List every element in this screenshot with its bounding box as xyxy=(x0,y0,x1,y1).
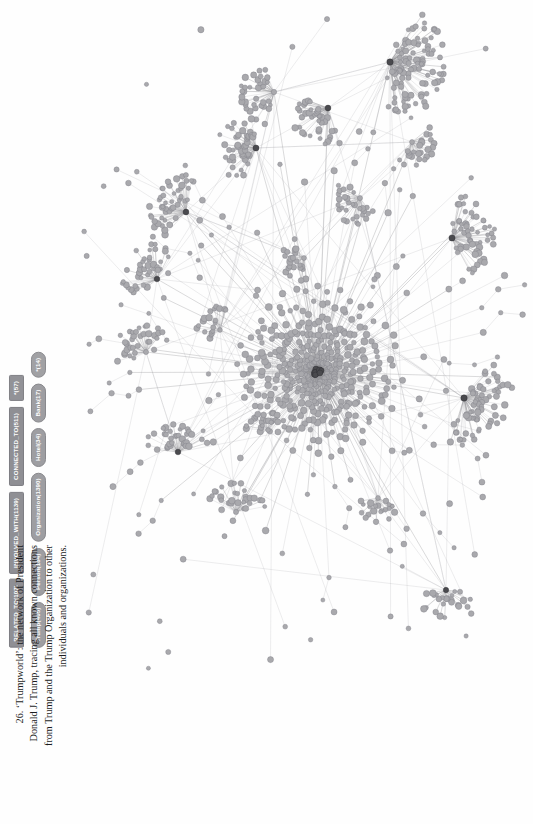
graph-node xyxy=(391,166,396,171)
graph-node xyxy=(134,329,139,334)
graph-node xyxy=(351,340,356,345)
node-badge-hotel[interactable]: Hotel(34) xyxy=(31,428,46,467)
graph-node xyxy=(472,251,479,258)
graph-node xyxy=(414,163,419,168)
graph-node xyxy=(392,342,399,349)
graph-node xyxy=(403,48,409,54)
graph-node xyxy=(290,447,296,453)
graph-node xyxy=(180,556,186,562)
graph-node xyxy=(310,437,316,443)
graph-node xyxy=(235,142,241,148)
graph-node xyxy=(303,289,308,294)
graph-node xyxy=(248,115,255,122)
rel-badge-clipped[interactable]: *(57) xyxy=(9,375,24,401)
graph-node xyxy=(277,364,283,370)
graph-node xyxy=(197,275,203,281)
graph-node xyxy=(360,428,366,434)
graph-node xyxy=(492,227,496,231)
graph-node xyxy=(350,369,356,375)
graph-node xyxy=(402,100,406,104)
graph-node xyxy=(253,145,259,151)
graph-node xyxy=(302,256,307,261)
graph-node xyxy=(287,273,292,278)
graph-node xyxy=(295,106,300,111)
graph-node xyxy=(397,158,401,162)
graph-edge xyxy=(202,200,222,216)
graph-node xyxy=(387,59,393,65)
graph-node xyxy=(124,267,129,272)
node-badge-organization[interactable]: Organization(1390) xyxy=(31,473,46,542)
graph-node xyxy=(231,148,235,152)
rel-badge-connected-to[interactable]: CONNECTED_TO(511) xyxy=(9,407,24,486)
graph-node xyxy=(278,309,285,316)
graph-node xyxy=(463,209,468,214)
graph-node xyxy=(325,300,330,305)
graph-node xyxy=(289,377,294,382)
graph-node xyxy=(260,498,266,504)
graph-node xyxy=(114,167,119,172)
graph-node xyxy=(311,299,316,304)
graph-node xyxy=(189,431,195,437)
graph-node xyxy=(479,479,485,485)
graph-node xyxy=(455,250,460,255)
graph-node xyxy=(144,323,150,329)
graph-node xyxy=(393,107,398,112)
graph-node xyxy=(301,179,308,186)
graph-node xyxy=(347,184,354,191)
graph-node xyxy=(229,154,235,160)
graph-node xyxy=(352,190,356,194)
graph-node xyxy=(329,335,334,340)
graph-node xyxy=(192,492,196,496)
graph-node xyxy=(495,379,500,384)
graph-node xyxy=(367,420,372,425)
graph-node xyxy=(148,248,152,252)
graph-node xyxy=(390,363,396,369)
graph-node xyxy=(122,339,128,345)
graph-node xyxy=(292,427,298,433)
graph-node xyxy=(110,484,116,490)
graph-node xyxy=(223,155,228,160)
graph-node xyxy=(126,393,131,398)
graph-edge xyxy=(345,508,349,527)
graph-node xyxy=(204,440,210,446)
graph-node xyxy=(298,371,304,377)
graph-node xyxy=(238,480,244,486)
graph-node xyxy=(404,290,410,296)
graph-edge xyxy=(449,363,474,365)
node-badge-clipped[interactable]: *(14) xyxy=(31,352,46,378)
graph-node xyxy=(453,430,458,435)
graph-node xyxy=(431,80,437,86)
node-badge-bank[interactable]: Bank(17) xyxy=(31,384,46,423)
graph-node xyxy=(331,609,337,615)
graph-node xyxy=(248,335,254,341)
graph-node xyxy=(196,323,200,327)
graph-node xyxy=(248,85,252,89)
graph-edge xyxy=(274,62,390,92)
graph-node xyxy=(230,518,236,524)
graph-node xyxy=(186,443,193,450)
graph-node xyxy=(323,431,330,438)
graph-node xyxy=(219,498,224,503)
graph-node xyxy=(134,169,139,174)
graph-node xyxy=(299,425,306,432)
graph-node xyxy=(295,355,300,360)
graph-node xyxy=(258,74,263,79)
graph-node xyxy=(405,148,410,153)
graph-node xyxy=(367,500,374,507)
graph-node xyxy=(452,546,456,550)
graph-node xyxy=(162,248,168,254)
graph-node xyxy=(146,666,150,670)
graph-node xyxy=(308,383,313,388)
graph-node xyxy=(248,379,255,386)
graph-node xyxy=(475,456,480,461)
graph-node xyxy=(474,409,481,416)
graph-node xyxy=(169,436,174,441)
graph-node xyxy=(441,602,446,607)
graph-node xyxy=(406,626,411,631)
graph-node xyxy=(341,339,347,345)
graph-node xyxy=(160,186,165,191)
graph-node xyxy=(458,195,463,200)
graph-node xyxy=(147,339,152,344)
graph-node xyxy=(283,321,290,328)
graph-node xyxy=(281,418,286,423)
